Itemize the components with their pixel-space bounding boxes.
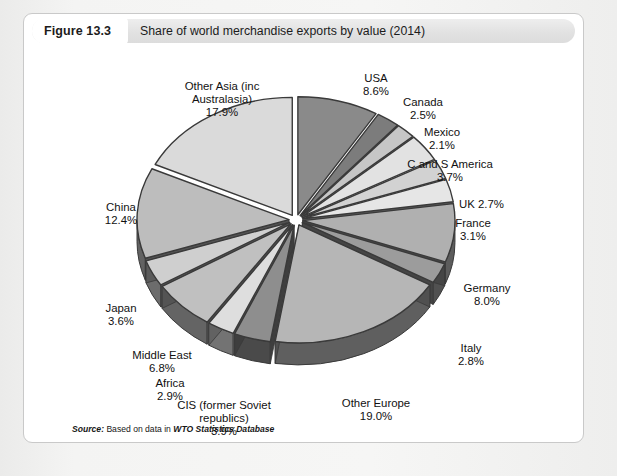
pie-label-france: France 3.1% bbox=[443, 217, 503, 243]
pie-label-other-asia-inc-australasia: Other Asia (inc Australasia) 17.9% bbox=[157, 80, 287, 120]
pie-label-other-europe: Other Europe 19.0% bbox=[326, 397, 426, 423]
figure-panel: Figure 13.3 Share of world merchandise e… bbox=[23, 13, 584, 443]
pie-label-mexico: Mexico 2.1% bbox=[412, 126, 472, 152]
source-prefix: Source: bbox=[72, 424, 104, 434]
source-text: Based on data in bbox=[104, 424, 173, 434]
pie-label-middle-east: Middle East 6.8% bbox=[117, 349, 207, 375]
pie-label-c-and-s-america: C and S America 3.7% bbox=[395, 158, 505, 184]
pie-label-germany: Germany 8.0% bbox=[452, 282, 522, 308]
pie-label-canada: Canada 2.5% bbox=[393, 96, 453, 122]
pie-label-japan: Japan 3.6% bbox=[91, 302, 151, 328]
pie-label-africa: Africa 2.9% bbox=[140, 377, 200, 403]
pie-slice-tops bbox=[137, 97, 455, 343]
source-database: WTO Statistics Database bbox=[173, 424, 274, 434]
pie-chart: USA 8.6%Canada 2.5%Mexico 2.1%C and S Am… bbox=[24, 48, 583, 410]
figure-number-label: Figure 13.3 bbox=[44, 24, 111, 38]
figure-title: Share of world merchandise exports by va… bbox=[140, 24, 425, 38]
figure-header: Figure 13.3 Share of world merchandise e… bbox=[24, 14, 583, 48]
pie-label-usa: USA 8.6% bbox=[346, 72, 406, 98]
pie-label-italy: Italy 2.8% bbox=[446, 342, 496, 368]
scanned-page: Figure 13.3 Share of world merchandise e… bbox=[0, 0, 617, 476]
pie-label-uk: UK 2.7% bbox=[459, 198, 529, 211]
pie-label-china: China 12.4% bbox=[91, 201, 151, 227]
source-note: Source: Based on data in WTO Statistics … bbox=[72, 424, 274, 434]
